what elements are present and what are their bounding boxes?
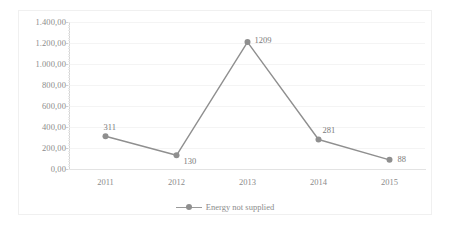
y-axis-minor-tick [68,151,70,152]
legend-marker-icon [176,203,202,212]
y-axis-minor-tick [68,103,70,104]
y-axis-minor-tick [68,30,70,31]
y-axis-minor-tick [68,111,70,112]
y-axis-minor-tick [68,90,70,91]
y-axis-minor-tick [68,164,70,165]
y-axis-minor-tick [68,59,70,60]
y-axis-minor-tick [68,96,70,97]
y-axis-minor-tick [68,101,70,102]
y-axis-minor-tick [68,64,70,65]
y-axis-minor-tick [68,135,70,136]
y-axis-minor-tick [68,127,70,128]
y-axis-minor-tick [68,140,70,141]
y-axis-minor-tick [68,56,70,57]
y-axis-minor-tick [68,33,70,34]
y-axis-minor-tick [68,46,70,47]
y-axis-tick-label: 600,00 [2,102,66,111]
y-axis-tick-label: 200,00 [2,144,66,153]
y-axis-tick-label: 1.200,00 [2,39,66,48]
y-axis-minor-tick [68,61,70,62]
y-axis-minor-tick [68,27,70,28]
y-axis-minor-tick [68,67,70,68]
x-axis-line [69,169,426,170]
x-axis-tick-label: 2012 [142,178,212,187]
y-axis-minor-tick [68,88,70,89]
y-axis-minor-tick [68,119,70,120]
y-axis-tick-labels: 0,00200,00400,00600,00800,001.000,001.20… [0,0,66,233]
x-axis-tick-label: 2015 [355,178,425,187]
data-point-label: 311 [104,123,116,132]
y-axis-minor-tick [68,106,70,107]
y-axis-tick-label: 800,00 [2,81,66,90]
y-axis-minor-tick [68,51,70,52]
gridline [70,22,425,23]
gridline [70,148,425,149]
y-axis-minor-tick [68,25,70,26]
y-axis-minor-tick [68,138,70,139]
y-axis-minor-tick [68,85,70,86]
y-axis-minor-tick [68,54,70,55]
y-axis-minor-tick [68,80,70,81]
data-point-label: 130 [184,157,197,166]
y-axis-minor-tick [68,77,70,78]
data-point-label: 1209 [255,36,272,45]
y-axis-minor-tick [68,145,70,146]
y-axis-minor-tick [68,161,70,162]
y-axis-minor-tick [68,130,70,131]
y-axis-minor-tick [68,169,70,170]
y-axis-tick-label: 1.400,00 [2,18,66,27]
x-axis-tick-label: 2014 [284,178,354,187]
y-axis-minor-tick [68,122,70,123]
y-axis-minor-tick [68,82,70,83]
y-axis-minor-tick [68,159,70,160]
gridline [70,127,425,128]
gridline [70,64,425,65]
y-axis-minor-tick [68,117,70,118]
y-axis-minor-tick [68,43,70,44]
chart-legend: Energy not supplied [0,200,450,214]
legend-item-label: Energy not supplied [206,203,274,212]
y-axis-tick-label: 1.000,00 [2,60,66,69]
y-axis-minor-tick [68,69,70,70]
y-axis-tick-label: 400,00 [2,123,66,132]
gridline [70,43,425,44]
y-axis-minor-tick [68,148,70,149]
y-axis-minor-tick [68,114,70,115]
y-axis-minor-tick [68,72,70,73]
data-point-label: 281 [323,126,336,135]
data-point-label: 88 [398,155,407,164]
y-axis-minor-tick [68,98,70,99]
y-axis-minor-tick [68,35,70,36]
y-axis-minor-tick [68,156,70,157]
y-axis-minor-tick [68,143,70,144]
x-axis-tick-label: 2013 [213,178,283,187]
y-axis-minor-tick [68,124,70,125]
y-axis-minor-tick [68,75,70,76]
gridline [70,106,425,107]
y-axis-tick-label: 0,00 [2,165,66,174]
y-axis-minor-tick [68,38,70,39]
y-axis-minor-tick [68,153,70,154]
y-axis-minor-tick [68,166,70,167]
y-axis-minor-tick [68,40,70,41]
gridline [70,85,425,86]
y-axis-minor-tick [68,22,70,23]
x-axis-tick-label: 2011 [71,178,141,187]
y-axis-minor-tick [68,93,70,94]
y-axis-minor-tick [68,48,70,49]
y-axis-minor-tick [68,132,70,133]
y-axis-minor-tick [68,109,70,110]
